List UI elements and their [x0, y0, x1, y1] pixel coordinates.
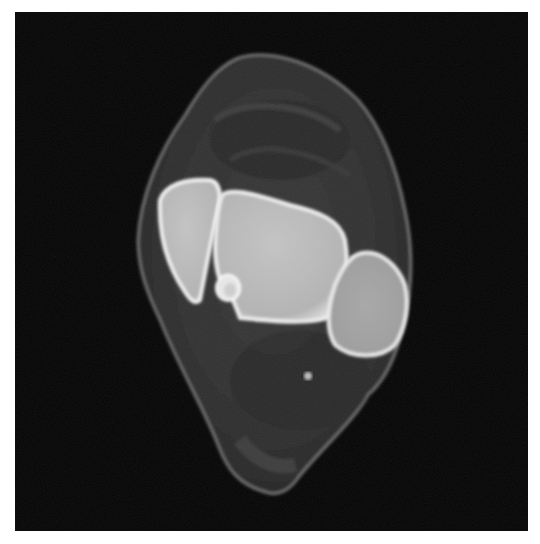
noise-overlay [15, 12, 528, 531]
medical-scan-image [0, 0, 540, 544]
